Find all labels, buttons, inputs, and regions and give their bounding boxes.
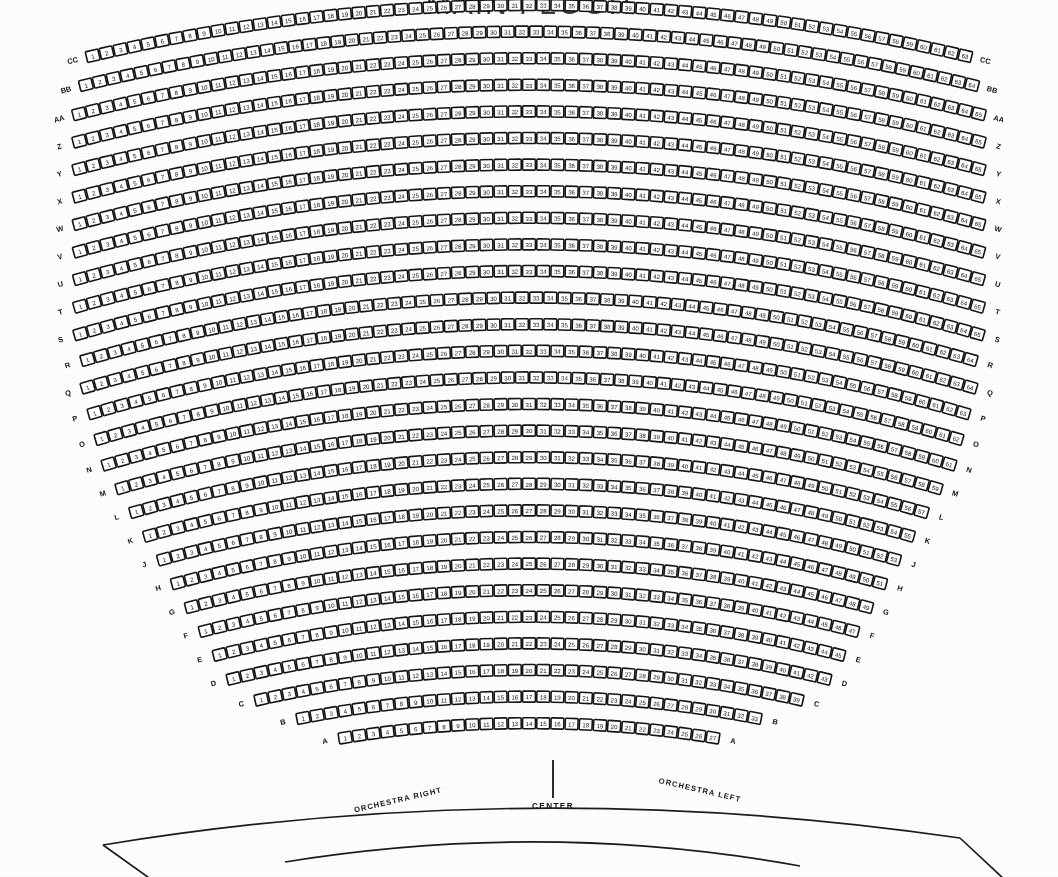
seat[interactable]: 23 [380, 244, 394, 256]
seat[interactable]: 7 [296, 630, 311, 643]
seat[interactable]: 2 [184, 572, 199, 586]
seat[interactable]: 9 [197, 378, 212, 391]
seat[interactable]: 27 [437, 267, 450, 279]
seat[interactable]: 32 [508, 239, 521, 250]
seat[interactable]: 44 [678, 85, 692, 97]
seat[interactable]: 34 [537, 53, 550, 64]
seat[interactable]: 25 [494, 505, 507, 516]
seat[interactable]: 15 [324, 465, 338, 478]
seat[interactable]: 5 [128, 285, 143, 299]
seat[interactable]: 29 [466, 186, 479, 197]
seat[interactable]: 28 [451, 80, 464, 91]
seat[interactable]: 53 [805, 74, 819, 87]
seat[interactable]: 2 [310, 709, 325, 722]
seat[interactable]: 21 [621, 721, 635, 733]
seat[interactable]: 13 [239, 154, 253, 167]
seat[interactable]: 33 [636, 562, 650, 574]
seat[interactable]: 42 [706, 463, 720, 476]
seat[interactable]: 43 [664, 244, 678, 256]
seat[interactable]: 64 [957, 213, 972, 227]
seat[interactable]: 23 [380, 58, 394, 70]
seat[interactable]: 45 [706, 356, 720, 368]
seat[interactable]: 27 [565, 585, 578, 596]
seat[interactable]: 26 [430, 294, 443, 306]
seat[interactable]: 37 [579, 133, 592, 144]
seat[interactable]: 17 [324, 411, 338, 424]
seat[interactable]: 8 [169, 248, 184, 261]
seat[interactable]: 15 [296, 415, 310, 428]
seat[interactable]: 22 [366, 139, 380, 151]
seat[interactable]: 49 [749, 66, 763, 78]
seat[interactable]: 40 [762, 633, 777, 646]
seat[interactable]: 5 [198, 514, 213, 528]
seat[interactable]: 58 [874, 167, 889, 180]
seat[interactable]: 34 [537, 266, 550, 277]
seat[interactable]: 40 [650, 403, 664, 415]
seat[interactable]: 12 [494, 718, 507, 729]
seat[interactable]: 14 [380, 592, 394, 604]
seat[interactable]: 34 [650, 564, 664, 576]
seat[interactable]: 35 [706, 651, 720, 664]
seat[interactable]: 63 [944, 128, 959, 142]
seat[interactable]: 64 [963, 352, 978, 366]
seat[interactable]: 18 [309, 64, 323, 76]
seat[interactable]: 14 [260, 44, 274, 57]
seat[interactable]: 41 [636, 269, 650, 281]
seat[interactable]: 45 [692, 274, 706, 286]
seat[interactable]: 20 [423, 508, 437, 520]
seat[interactable]: 28 [508, 452, 521, 463]
seat[interactable]: 30 [480, 213, 493, 224]
seat[interactable]: 45 [699, 34, 713, 46]
seat[interactable]: 38 [678, 513, 692, 525]
seat[interactable]: 7 [310, 655, 324, 668]
seat[interactable]: 30 [508, 399, 521, 410]
seat[interactable]: 55 [832, 240, 847, 253]
seat[interactable]: 58 [874, 303, 889, 317]
seat[interactable]: 8 [169, 167, 184, 180]
seat[interactable]: 58 [874, 140, 889, 153]
seat[interactable]: 21 [380, 405, 394, 417]
seat[interactable]: 40 [622, 268, 635, 280]
seat[interactable]: 34 [692, 649, 706, 662]
seat[interactable]: 47 [720, 170, 734, 182]
seat[interactable]: 22 [373, 298, 387, 310]
seat[interactable]: 10 [423, 695, 437, 707]
seat[interactable]: 19 [324, 116, 338, 128]
seat[interactable]: 24 [409, 3, 422, 15]
seat[interactable]: 30 [494, 0, 507, 11]
seat[interactable]: 7 [162, 331, 177, 345]
seat[interactable]: 43 [664, 84, 678, 96]
seat[interactable]: 57 [860, 300, 875, 313]
seat[interactable]: 19 [366, 433, 380, 445]
seat[interactable]: 6 [156, 388, 171, 402]
seat[interactable]: 33 [530, 292, 543, 303]
seat[interactable]: 56 [846, 297, 861, 310]
seat[interactable]: 8 [282, 579, 297, 592]
seat[interactable]: 7 [155, 306, 170, 320]
seat[interactable]: 47 [727, 304, 741, 317]
seat[interactable]: 7 [155, 115, 170, 128]
seat[interactable]: 41 [636, 242, 650, 254]
seat[interactable]: 47 [720, 143, 734, 155]
seat[interactable]: 58 [889, 34, 904, 47]
seat[interactable]: 42 [720, 491, 734, 504]
seat[interactable]: 34 [537, 133, 550, 144]
seat[interactable]: 55 [840, 52, 854, 65]
seat[interactable]: 4 [296, 684, 311, 697]
seat[interactable]: 41 [643, 323, 657, 335]
seat[interactable]: 39 [608, 108, 621, 120]
seat[interactable]: 35 [558, 292, 571, 303]
seat[interactable]: 30 [480, 53, 493, 64]
seat[interactable]: 6 [268, 608, 283, 621]
seat[interactable]: 27 [444, 27, 457, 39]
seat[interactable]: 53 [811, 344, 826, 357]
seat[interactable]: 11 [437, 694, 451, 706]
seat[interactable]: 42 [657, 31, 671, 43]
seat[interactable]: 25 [416, 295, 430, 307]
seat[interactable]: 26 [437, 347, 450, 359]
seat[interactable]: 35 [565, 0, 578, 11]
seat[interactable]: 21 [437, 507, 450, 519]
seat[interactable]: 62 [949, 431, 964, 445]
seat[interactable]: 63 [958, 49, 973, 63]
seat[interactable]: 14 [523, 718, 536, 729]
